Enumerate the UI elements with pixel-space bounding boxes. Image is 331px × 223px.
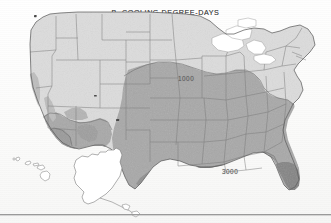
contour-label-1000: 1000 <box>178 75 194 82</box>
page-divider-rule-shadow <box>0 215 331 216</box>
hawaii-island-big-island <box>40 171 50 181</box>
figure-page: B. COOLING DEGREE-DAYS <box>0 0 331 223</box>
hawaii-island-niihau <box>13 158 15 160</box>
hawaii-island-maui <box>37 165 45 170</box>
contour-label-3000: 3000 <box>222 168 238 175</box>
marker-puget-sound <box>34 15 37 17</box>
map-svg <box>0 0 331 223</box>
hawaii-island-molokai <box>33 163 39 166</box>
marker-central-plains <box>94 95 97 97</box>
hawaii-inset <box>13 157 50 181</box>
hawaii-island-oahu <box>25 161 31 165</box>
marker-southwest-interior <box>116 119 119 121</box>
hawaii-island-kauai <box>16 157 20 161</box>
cooling-degree-days-map <box>0 0 331 223</box>
